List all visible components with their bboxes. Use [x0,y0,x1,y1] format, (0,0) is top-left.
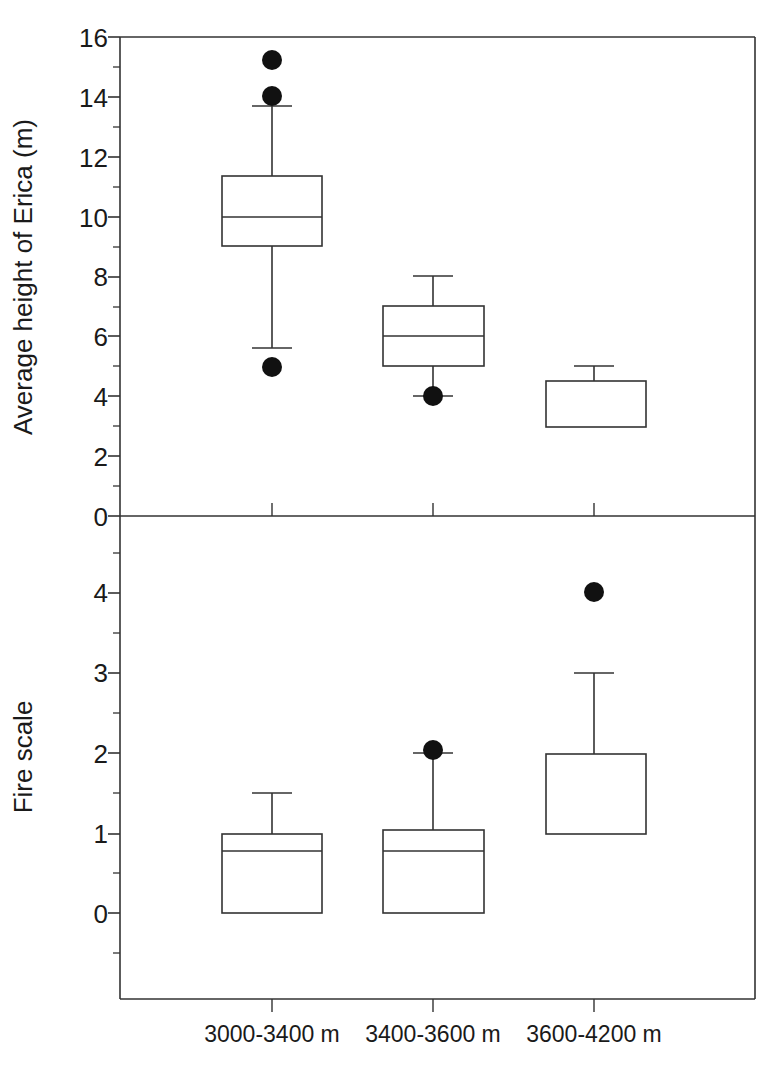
top-panel-y-ticks [108,37,120,516]
box-iqr [546,381,646,427]
outlier-point [584,582,604,602]
outlier-point [262,357,282,377]
bottom-panel: Fire scale 4 3 2 1 0 [8,516,755,1047]
outliers-bottom-3600-4200 [584,582,604,602]
outlier-point [423,386,443,406]
outlier-point [262,50,282,70]
bottom-panel-y-axis-label: Fire scale [8,701,38,814]
bottom-panel-y-ticks [108,593,120,913]
shared-middle-axis [120,503,755,516]
box-bottom-3600-4200 [546,673,646,834]
box-iqr [222,176,322,246]
bottom-tick-label-1: 1 [94,819,108,849]
top-tick-label-4: 4 [94,382,108,412]
x-axis-category-label-1: 3000-3400 m [204,1021,340,1047]
top-panel: Average height of Erica (m) 16 14 12 10 … [8,23,755,532]
top-panel-y-axis-label: Average height of Erica (m) [8,119,38,435]
top-tick-label-12: 12 [79,143,108,173]
figure-canvas: Average height of Erica (m) 16 14 12 10 … [0,0,771,1068]
bottom-tick-label-4: 4 [94,578,108,608]
top-tick-label-14: 14 [79,83,108,113]
top-tick-label-16: 16 [79,23,108,53]
top-tick-label-10: 10 [79,203,108,233]
top-tick-label-6: 6 [94,322,108,352]
bottom-panel-x-ticks [272,999,594,1012]
x-axis-category-label-3: 3600-4200 m [526,1021,662,1047]
box-iqr [383,830,484,913]
x-axis-category-label-2: 3400-3600 m [365,1021,501,1047]
bottom-tick-label-3: 3 [94,658,108,688]
bottom-tick-label-2: 2 [94,739,108,769]
box-bottom-3000-3400 [222,793,322,913]
box-iqr [546,754,646,834]
outliers-bottom-3400-3600 [423,740,443,760]
top-tick-label-0: 0 [94,502,108,532]
box-top-3600-4200 [546,366,646,427]
outlier-point [262,86,282,106]
box-bottom-3400-3600 [383,753,484,913]
boxplot-figure: Average height of Erica (m) 16 14 12 10 … [0,0,771,1068]
top-tick-label-2: 2 [94,442,108,472]
box-top-3000-3400 [222,106,322,348]
box-top-3400-3600 [383,276,484,396]
box-iqr [222,834,322,913]
top-tick-label-8: 8 [94,262,108,292]
outlier-point [423,740,443,760]
outliers-top-3400-3600 [423,386,443,406]
bottom-tick-label-0: 0 [94,899,108,929]
